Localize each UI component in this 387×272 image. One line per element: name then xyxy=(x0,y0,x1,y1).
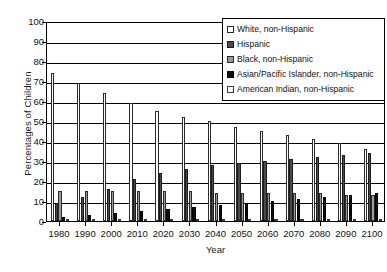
y-axis-tick-label: 40 xyxy=(4,137,44,147)
bar xyxy=(300,219,303,221)
bar xyxy=(144,219,147,221)
y-axis-tick-label: 80 xyxy=(4,57,44,67)
y-axis-tick-label: 0 xyxy=(4,217,44,227)
y-axis-tick-label: 100 xyxy=(4,17,44,27)
legend-swatch-icon xyxy=(227,56,234,63)
bar xyxy=(327,219,330,221)
bar-group xyxy=(51,23,69,221)
legend-item-label: White, non-Hispanic xyxy=(237,25,314,34)
x-axis-tick-mark xyxy=(242,222,243,226)
legend-item: Hispanic xyxy=(227,37,381,52)
x-axis-title: Year xyxy=(46,244,385,255)
y-axis-tick-label: 10 xyxy=(4,197,44,207)
bar-group xyxy=(155,23,173,221)
bar xyxy=(248,219,251,221)
bar xyxy=(349,195,352,221)
bar-group xyxy=(182,23,200,221)
bar xyxy=(92,219,95,221)
bar xyxy=(271,201,274,221)
legend-item-label: Black, non-Hispanic xyxy=(237,55,313,64)
legend-item: White, non-Hispanic xyxy=(227,22,381,37)
legend-item-label: American Indian, non-Hispanic xyxy=(237,85,354,94)
bar-group xyxy=(103,23,121,221)
x-axis-tick-mark xyxy=(346,222,347,226)
y-axis-tick-label: 70 xyxy=(4,77,44,87)
bar xyxy=(297,199,300,221)
bar xyxy=(274,219,277,221)
legend-item: Asian/Pacific Islander, non-Hispanic xyxy=(227,67,381,82)
y-axis-tick-label: 30 xyxy=(4,157,44,167)
chart-legend: White, non-HispanicHispanicBlack, non-Hi… xyxy=(222,18,385,101)
y-axis-tick-label: 60 xyxy=(4,97,44,107)
legend-swatch-icon xyxy=(227,71,234,78)
bar xyxy=(222,219,225,221)
x-axis-tick-mark xyxy=(372,222,373,226)
chart-figure: Percentages of Children 0102030405060708… xyxy=(0,0,387,272)
legend-swatch-icon xyxy=(227,41,234,48)
x-axis-tick-mark xyxy=(189,222,190,226)
bar xyxy=(170,219,173,221)
bar xyxy=(375,193,378,221)
legend-item: American Indian, non-Hispanic xyxy=(227,82,381,97)
legend-item: Black, non-Hispanic xyxy=(227,52,381,67)
x-axis-tick-mark xyxy=(137,222,138,226)
x-axis-tick-mark xyxy=(294,222,295,226)
x-axis-tick-mark xyxy=(163,222,164,226)
bar xyxy=(66,219,69,221)
bar xyxy=(118,219,121,221)
y-axis-tick-label: 50 xyxy=(4,117,44,127)
x-axis-tick-label: 2100 xyxy=(352,228,387,239)
x-axis-tick-mark xyxy=(111,222,112,226)
y-axis-tick-mark xyxy=(42,222,46,223)
legend-swatch-icon xyxy=(227,86,234,93)
y-axis-tick-label: 90 xyxy=(4,37,44,47)
legend-item-label: Asian/Pacific Islander, non-Hispanic xyxy=(237,70,374,79)
bar xyxy=(51,73,54,221)
legend-swatch-icon xyxy=(227,26,234,33)
x-axis-tick-mark xyxy=(85,222,86,226)
legend-item-label: Hispanic xyxy=(237,40,270,49)
bar xyxy=(353,219,356,221)
y-axis-tick-label: 20 xyxy=(4,177,44,187)
bar-group xyxy=(129,23,147,221)
x-axis-tick-mark xyxy=(59,222,60,226)
x-axis-tick-mark xyxy=(320,222,321,226)
bar xyxy=(323,197,326,221)
x-axis-tick-mark xyxy=(216,222,217,226)
bar xyxy=(379,219,382,221)
bar-group xyxy=(77,23,95,221)
bar xyxy=(196,219,199,221)
x-axis-tick-mark xyxy=(268,222,269,226)
